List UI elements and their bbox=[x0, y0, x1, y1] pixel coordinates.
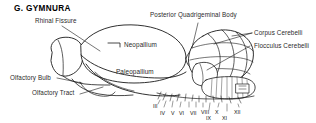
label-nerve-vii: VII bbox=[190, 111, 197, 116]
label-nerve-iv: IV bbox=[160, 111, 165, 116]
brain-figure: G. GYMNURA Rhinal Fissure Posterior Quad… bbox=[0, 0, 316, 123]
label-nerve-x: X bbox=[215, 110, 219, 115]
olfactory-bulb-outline bbox=[51, 37, 83, 76]
label-rhinal-fissure: Rhinal Fissure bbox=[35, 18, 77, 24]
label-nerve-xi: XI bbox=[222, 116, 227, 121]
label-olfactory-tract: Olfactory Tract bbox=[32, 90, 74, 96]
label-nerve-ix: IX bbox=[206, 116, 211, 121]
leader-olfactory-bulb bbox=[57, 78, 82, 83]
label-nerve-xii: XII bbox=[234, 110, 241, 115]
label-olfactory-bulb: Olfactory Bulb bbox=[10, 75, 51, 81]
figure-title: G. GYMNURA bbox=[14, 5, 71, 13]
label-neopallium: Neopallium bbox=[124, 42, 157, 48]
label-posterior-quadrigeminal-body: Posterior Quadrigeminal Body bbox=[150, 12, 237, 18]
leader-olfactory-tract bbox=[80, 87, 103, 94]
label-flocculus-cerebelli: Flocculus Cerebelli bbox=[254, 43, 309, 49]
label-nerve-iii: III bbox=[153, 104, 158, 109]
label-paleopallium: Paleopallium bbox=[116, 69, 154, 75]
label-nerve-vi: VI bbox=[179, 111, 184, 116]
label-corpus-cerebelli: Corpus Cerebelli bbox=[254, 30, 303, 36]
medulla-inner-block bbox=[236, 84, 249, 93]
label-nerve-v: V bbox=[171, 111, 175, 116]
